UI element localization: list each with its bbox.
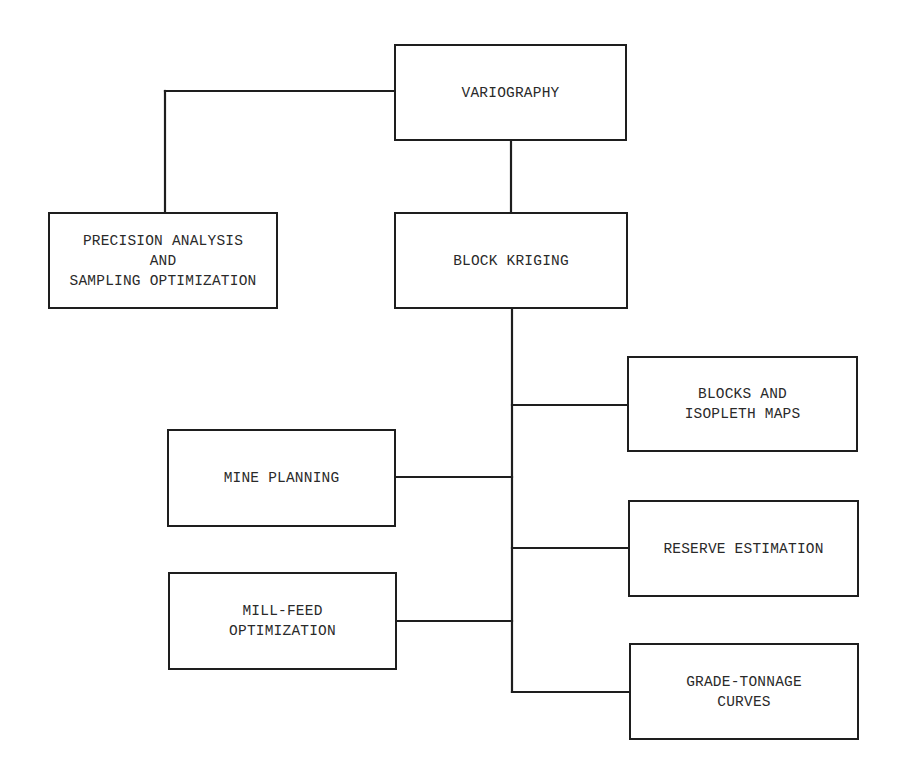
node-blocks-line-2: ISOPLETH MAPS: [685, 404, 801, 424]
node-reserve-estimation: RESERVE ESTIMATION: [628, 500, 859, 597]
node-precision-analysis: PRECISION ANALYSIS AND SAMPLING OPTIMIZA…: [48, 212, 278, 309]
node-block-kriging: BLOCK KRIGING: [394, 212, 628, 309]
node-variography-label: VARIOGRAPHY: [462, 83, 560, 103]
node-precision-line-2: AND: [150, 251, 177, 271]
flowchart-diagram: VARIOGRAPHY PRECISION ANALYSIS AND SAMPL…: [0, 0, 904, 783]
node-mill-feed-optimization: MILL-FEED OPTIMIZATION: [168, 572, 397, 670]
node-reserve-estimation-label: RESERVE ESTIMATION: [663, 539, 823, 559]
node-grade-tonnage-curves: GRADE-TONNAGE CURVES: [629, 643, 859, 740]
node-mine-planning: MINE PLANNING: [167, 429, 396, 527]
node-grade-tonnage-line-2: CURVES: [717, 692, 770, 712]
node-variography: VARIOGRAPHY: [394, 44, 627, 141]
node-mill-feed-line-1: MILL-FEED: [242, 601, 322, 621]
node-precision-analysis-text: PRECISION ANALYSIS AND SAMPLING OPTIMIZA…: [70, 231, 257, 291]
node-precision-line-3: SAMPLING OPTIMIZATION: [70, 271, 257, 291]
node-grade-tonnage-line-1: GRADE-TONNAGE: [686, 672, 802, 692]
node-mill-feed-text: MILL-FEED OPTIMIZATION: [229, 601, 336, 641]
node-mill-feed-line-2: OPTIMIZATION: [229, 621, 336, 641]
node-block-kriging-label: BLOCK KRIGING: [453, 251, 569, 271]
node-grade-tonnage-text: GRADE-TONNAGE CURVES: [686, 672, 802, 712]
node-mine-planning-label: MINE PLANNING: [224, 468, 340, 488]
node-precision-line-1: PRECISION ANALYSIS: [83, 231, 243, 251]
node-blocks-isopleth-text: BLOCKS AND ISOPLETH MAPS: [685, 384, 801, 424]
node-blocks-isopleth-maps: BLOCKS AND ISOPLETH MAPS: [627, 356, 858, 452]
node-blocks-line-1: BLOCKS AND: [698, 384, 787, 404]
